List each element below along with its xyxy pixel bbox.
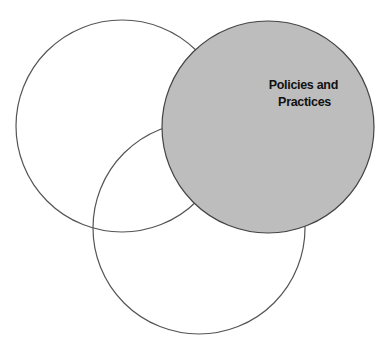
venn-diagram: Policies and Practices [0, 0, 387, 349]
venn-circle-policies-and-practices [162, 21, 374, 233]
circle-label-policies: Policies and [269, 78, 338, 92]
circle-label-practices: Practices [278, 95, 331, 109]
